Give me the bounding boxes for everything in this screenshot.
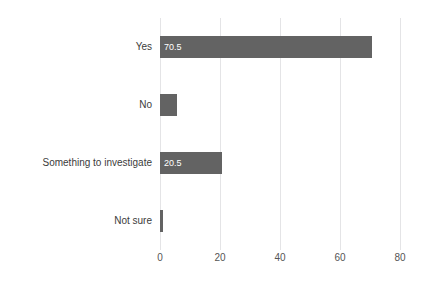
- bar-not-sure[interactable]: [160, 210, 163, 232]
- category-label: Yes: [136, 36, 152, 58]
- bar-yes[interactable]: [160, 36, 372, 58]
- bar-no[interactable]: [160, 94, 177, 116]
- bar-row[interactable]: [160, 94, 400, 116]
- x-tick-label: 60: [334, 252, 345, 263]
- bar-row[interactable]: 20.5: [160, 152, 400, 174]
- x-tick-label: 40: [274, 252, 285, 263]
- category-label: No: [139, 94, 152, 116]
- bar-value-label: 70.5: [164, 36, 182, 58]
- bar-row[interactable]: [160, 210, 400, 232]
- plot-area: 70.520.5: [160, 18, 400, 250]
- bar-value-label: 20.5: [164, 152, 182, 174]
- category-axis-labels: YesNoSomething to investigateNot sure: [0, 18, 152, 250]
- x-tick-label: 80: [394, 252, 405, 263]
- bar-chart-figure: YesNoSomething to investigateNot sure 70…: [0, 0, 424, 282]
- bar-row[interactable]: 70.5: [160, 36, 400, 58]
- x-axis-tick-labels: 020406080: [0, 252, 424, 272]
- gridline: [400, 18, 401, 250]
- chart-title: [22, 0, 322, 5]
- x-tick-label: 0: [157, 252, 163, 263]
- x-tick-label: 20: [214, 252, 225, 263]
- category-label: Not sure: [114, 210, 152, 232]
- category-label: Something to investigate: [42, 152, 152, 174]
